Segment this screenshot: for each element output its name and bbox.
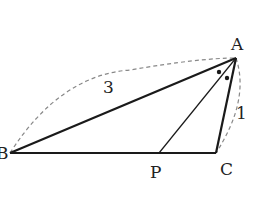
- angle-mark-dot-1: [217, 70, 221, 74]
- bisector-ap: [159, 58, 236, 153]
- length-ac-label: 1: [236, 103, 247, 123]
- label-c: C: [220, 159, 233, 179]
- label-b: B: [0, 143, 9, 163]
- angle-mark-dot-2: [225, 76, 229, 80]
- label-a: A: [230, 34, 244, 54]
- label-p: P: [150, 162, 161, 182]
- side-ab: [10, 58, 236, 153]
- length-ab-label: 3: [103, 77, 114, 97]
- triangle-diagram: A B C P 3 1: [0, 0, 272, 202]
